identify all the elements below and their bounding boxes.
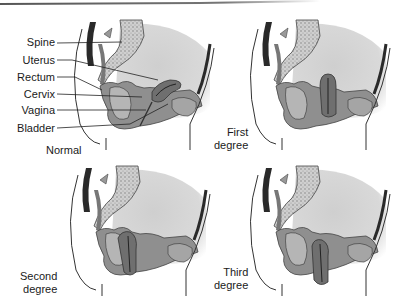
caption-normal: Normal xyxy=(46,144,81,157)
caption-third-line1: Third xyxy=(214,266,248,279)
caption-second-line2: degree xyxy=(20,283,57,296)
caption-second-degree: Second degree xyxy=(20,270,57,296)
caption-second-line1: Second xyxy=(20,270,57,283)
caption-first-line1: First xyxy=(214,126,248,139)
anatomy-illustration-second-degree xyxy=(56,160,216,300)
caption-first-line2: degree xyxy=(214,139,248,152)
caption-third-degree: Third degree xyxy=(214,266,248,292)
caption-third-line2: degree xyxy=(214,279,248,292)
panel-first-degree xyxy=(236,14,396,154)
anatomy-illustration-third-degree xyxy=(236,160,396,300)
caption-first-degree: First degree xyxy=(214,126,248,152)
panel-second-degree xyxy=(56,160,216,300)
anatomy-illustration-first-degree xyxy=(236,14,396,154)
panel-third-degree xyxy=(236,160,396,300)
